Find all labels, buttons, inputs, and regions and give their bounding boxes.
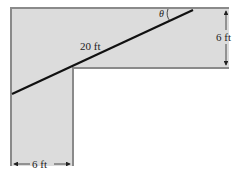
ladder-length-label: 20 ft <box>80 40 100 52</box>
right-width-label: 6 ft <box>216 31 231 43</box>
hallway-l-shape <box>11 8 229 166</box>
ladder-corner-diagram: θ 20 ft 6 ft 6 ft <box>0 0 234 175</box>
inner-wall <box>73 68 229 166</box>
diagram-svg: θ 20 ft 6 ft 6 ft <box>0 0 234 175</box>
angle-label: θ <box>159 8 164 19</box>
bottom-width-label: 6 ft <box>32 158 47 170</box>
